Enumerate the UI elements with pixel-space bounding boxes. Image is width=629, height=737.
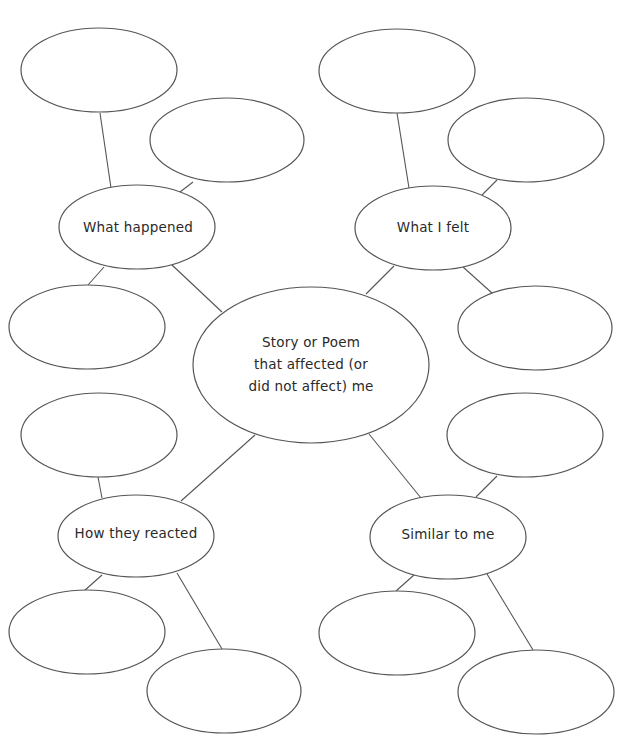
blank-answer-field-what-happened-2[interactable] <box>150 98 304 182</box>
blank-answer-field-what-i-felt-3[interactable] <box>458 286 612 370</box>
connector-what-happened-to-what-happened-3 <box>88 267 104 285</box>
blank-answer-field-what-i-felt-2[interactable] <box>448 98 604 182</box>
blank-answer-field-similar-to-me-1[interactable] <box>447 393 603 477</box>
connector-similar-to-me-to-similar-to-me-3 <box>487 574 533 650</box>
connector-center-to-what-i-felt <box>366 266 394 294</box>
blank-answer-field-what-happened-1[interactable] <box>21 28 177 112</box>
blank-answer-field-what-happened-3[interactable] <box>9 285 165 369</box>
connector-center-to-similar-to-me <box>369 434 421 498</box>
connector-what-i-felt-to-what-i-felt-3 <box>463 267 492 293</box>
connector-how-they-reacted-to-how-they-reacted-2 <box>84 575 102 591</box>
blank-answer-field-how-they-reacted-1[interactable] <box>21 393 177 477</box>
connector-similar-to-me-to-similar-to-me-1 <box>476 476 497 497</box>
blank-answer-field-what-i-felt-1[interactable] <box>319 29 475 113</box>
connector-what-happened-to-what-happened-1 <box>100 113 111 188</box>
connector-how-they-reacted-to-how-they-reacted-3 <box>177 573 222 649</box>
connector-center-to-what-happened <box>172 265 222 312</box>
connector-similar-to-me-to-similar-to-me-2 <box>396 575 414 591</box>
connector-what-i-felt-to-what-i-felt-2 <box>482 180 497 195</box>
blank-answer-field-how-they-reacted-3[interactable] <box>147 649 301 733</box>
category-label-what-i-felt: What I felt <box>397 219 469 235</box>
connector-how-they-reacted-to-how-they-reacted-1 <box>98 477 102 498</box>
category-label-similar-to-me: Similar to me <box>402 526 495 542</box>
center-node-label: Story or Poem that affected (or did not … <box>249 331 374 397</box>
blank-answer-field-how-they-reacted-2[interactable] <box>9 590 165 674</box>
connector-what-happened-to-what-happened-2 <box>180 182 193 192</box>
blank-answer-field-similar-to-me-3[interactable] <box>458 650 614 734</box>
connector-center-to-how-they-reacted <box>181 435 255 501</box>
category-label-how-they-reacted: How they reacted <box>75 525 198 541</box>
blank-answer-field-similar-to-me-2[interactable] <box>319 591 475 675</box>
category-label-what-happened: What happened <box>83 219 193 235</box>
connector-what-i-felt-to-what-i-felt-1 <box>397 113 409 188</box>
